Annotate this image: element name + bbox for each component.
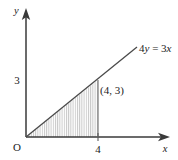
x-axis-label: x [162,143,168,154]
x-tick-label-4: 4 [95,143,101,155]
y-tick-label-3: 3 [14,74,20,86]
origin-label: O [13,141,21,153]
equation-operator: = 3 [149,42,167,54]
line-equation-label: 4y = 3x [139,42,172,54]
coordinate-plot: y x O 3 4 (4, 3) 4y = 3x [0,0,178,160]
point-label-4-3: (4, 3) [100,84,124,97]
y-axis-label: y [13,5,19,16]
figure-container: y x O 3 4 (4, 3) 4y = 3x [0,0,178,160]
equation-variable-x: x [166,42,172,54]
